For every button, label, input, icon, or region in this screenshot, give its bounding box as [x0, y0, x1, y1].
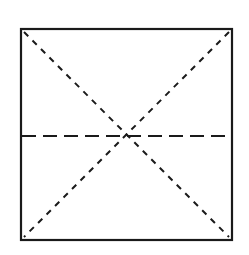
diagonal-top-right-to-bottom-left: [24, 32, 229, 237]
square-fold-diagram: [0, 0, 249, 255]
